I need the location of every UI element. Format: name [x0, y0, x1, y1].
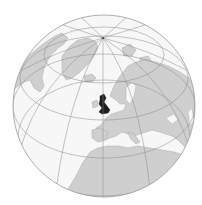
globe-svg — [0, 0, 202, 205]
locator-globe-map — [0, 0, 202, 205]
north-pole-point — [102, 37, 104, 39]
